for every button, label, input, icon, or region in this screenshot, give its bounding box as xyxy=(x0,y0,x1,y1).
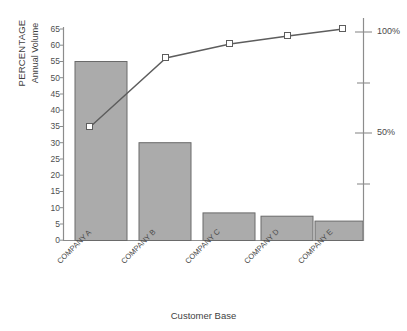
x-axis-title: Customer Base xyxy=(0,310,407,321)
chart-canvas xyxy=(0,0,407,331)
y-tick-0: 0 xyxy=(40,236,60,245)
y-tick-10: 10 xyxy=(40,204,60,213)
secondary-tick-label-100: 100% xyxy=(377,27,400,36)
y-axis-title-line2: Annual Volume xyxy=(30,23,40,84)
y-tick-30: 30 xyxy=(40,139,60,148)
marker-company-a xyxy=(87,124,93,130)
marker-company-c xyxy=(227,41,233,47)
marker-company-b xyxy=(163,55,169,61)
y-tick-20: 20 xyxy=(40,171,60,180)
bar-company-a xyxy=(75,62,127,241)
y-tick-25: 25 xyxy=(40,155,60,164)
secondary-tick-label-50: 50% xyxy=(377,128,395,137)
y-axis-title: PERCENTAGE Annual Volume xyxy=(9,0,45,118)
cumulative-line xyxy=(90,29,343,127)
marker-company-d xyxy=(285,33,291,39)
bar-company-b xyxy=(139,143,191,241)
pareto-chart: 65 60 55 50 45 40 35 30 25 20 15 10 5 0 … xyxy=(0,0,407,331)
marker-company-e xyxy=(340,26,346,32)
y-tick-35: 35 xyxy=(40,122,60,131)
bar-series xyxy=(75,62,363,241)
y-tick-5: 5 xyxy=(40,220,60,229)
y-tick-15: 15 xyxy=(40,187,60,196)
y-axis-title-line1: PERCENTAGE xyxy=(16,20,27,87)
